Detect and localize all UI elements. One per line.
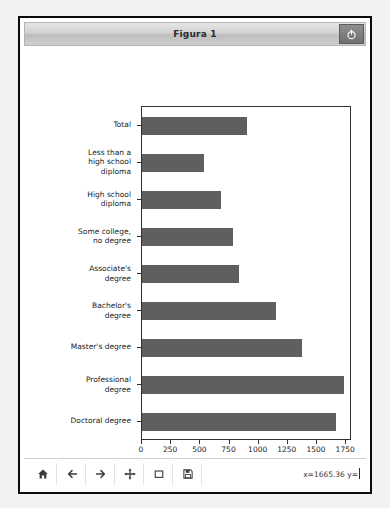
- y-tick-label: Master's degree: [71, 342, 131, 352]
- home-icon: [37, 468, 49, 480]
- bar: [142, 265, 239, 283]
- x-tick-label: 0: [139, 445, 144, 454]
- window-titlebar: Figura 1: [24, 22, 366, 46]
- figure-window: Figura 1 TotalLess than a high school di…: [18, 16, 372, 494]
- power-icon: [346, 29, 357, 40]
- pan-button[interactable]: [117, 463, 144, 485]
- bar-series: [142, 107, 350, 439]
- x-tick-mark: [316, 440, 317, 444]
- x-tick-mark: [345, 440, 346, 444]
- y-tick-label: Total: [113, 120, 131, 130]
- back-button[interactable]: [59, 463, 86, 485]
- figure-canvas[interactable]: TotalLess than a high school diplomaHigh…: [24, 48, 366, 458]
- x-tick-label: 1250: [277, 445, 296, 454]
- y-tick-label: High school diploma: [87, 189, 131, 208]
- x-tick-label: 1500: [306, 445, 325, 454]
- power-button[interactable]: [339, 24, 364, 44]
- x-tick-mark: [170, 440, 171, 444]
- bar: [142, 302, 276, 320]
- bar: [142, 376, 344, 394]
- save-disk-icon: [182, 468, 194, 480]
- navigation-toolbar: x=1665.36 y=: [24, 458, 366, 488]
- zoom-rect-icon: [153, 468, 165, 480]
- pan-move-icon: [124, 468, 136, 480]
- x-tick-mark: [229, 440, 230, 444]
- text-cursor: [359, 468, 360, 479]
- window-title: Figura 1: [173, 29, 217, 39]
- x-tick-mark: [141, 440, 142, 444]
- plot-axes: [141, 106, 351, 440]
- y-tick-label: Doctoral degree: [71, 417, 131, 427]
- y-axis-tick-labels: TotalLess than a high school diplomaHigh…: [24, 106, 137, 440]
- back-arrow-icon: [66, 468, 78, 480]
- y-tick-label: Some college, no degree: [78, 226, 131, 245]
- bar: [142, 339, 302, 357]
- save-button[interactable]: [175, 463, 202, 485]
- y-tick-label: Associate's degree: [89, 264, 131, 283]
- forward-button[interactable]: [88, 463, 115, 485]
- bar: [142, 117, 247, 135]
- x-tick-label: 1750: [336, 445, 355, 454]
- zoom-rect-button[interactable]: [146, 463, 173, 485]
- x-axis-ticks: 02505007501000125015001750: [141, 440, 351, 450]
- home-button[interactable]: [30, 463, 57, 485]
- app-root: Figura 1 TotalLess than a high school di…: [0, 0, 390, 508]
- x-tick-mark: [258, 440, 259, 444]
- forward-arrow-icon: [95, 468, 107, 480]
- y-tick-label: Bachelor's degree: [92, 301, 131, 320]
- x-tick-label: 1000: [248, 445, 267, 454]
- coordinate-text: x=1665.36 y=: [303, 470, 358, 479]
- x-tick-mark: [287, 440, 288, 444]
- x-tick-label: 250: [163, 445, 177, 454]
- bar: [142, 154, 204, 172]
- y-tick-label: Professional degree: [86, 375, 131, 394]
- x-tick-mark: [199, 440, 200, 444]
- bar: [142, 413, 336, 431]
- bar: [142, 228, 233, 246]
- x-tick-label: 500: [192, 445, 206, 454]
- y-tick-label: Less than a high school diploma: [88, 147, 131, 176]
- x-tick-label: 750: [221, 445, 235, 454]
- bar: [142, 191, 221, 209]
- coordinate-readout: x=1665.36 y=: [303, 468, 360, 479]
